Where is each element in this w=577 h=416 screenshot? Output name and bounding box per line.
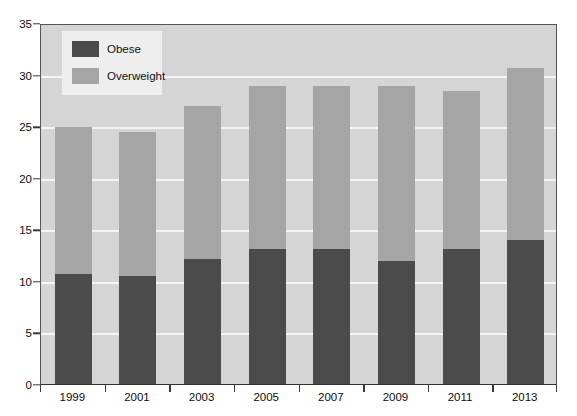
y-axis-tick xyxy=(33,178,40,179)
x-axis-tick xyxy=(234,385,235,392)
y-axis-label: 35 xyxy=(4,18,32,30)
y-axis-tick xyxy=(33,384,40,385)
x-axis-tick xyxy=(556,385,557,392)
x-axis-label: 2001 xyxy=(124,391,150,403)
x-axis-label: 2011 xyxy=(448,391,473,403)
y-axis-label: 30 xyxy=(4,70,32,82)
y-axis-tick xyxy=(33,126,40,127)
y-axis-label: 10 xyxy=(4,276,32,288)
chart-figure: 0510152025303519992001200320052007200920… xyxy=(0,0,577,416)
x-axis-tick xyxy=(492,385,493,392)
x-axis-label: 1999 xyxy=(60,391,86,403)
legend-item[interactable]: Overweight xyxy=(72,67,165,85)
x-axis-label: 2013 xyxy=(512,391,538,403)
legend-label: Obese xyxy=(107,43,141,55)
x-axis-tick xyxy=(105,385,106,392)
chart-legend: ObeseOverweight xyxy=(62,31,162,95)
x-axis-tick xyxy=(299,385,300,392)
y-axis-label: 15 xyxy=(4,224,32,236)
x-axis-label: 2009 xyxy=(383,391,409,403)
x-axis-tick xyxy=(169,385,170,392)
y-axis-label: 5 xyxy=(4,327,32,339)
x-axis-label: 2007 xyxy=(318,391,344,403)
x-axis-tick xyxy=(363,385,364,392)
legend-label: Overweight xyxy=(107,70,165,82)
x-axis-tick xyxy=(40,385,41,392)
y-axis-label: 20 xyxy=(4,173,32,185)
x-axis-tick xyxy=(428,385,429,392)
legend-item[interactable]: Obese xyxy=(72,40,141,58)
y-axis-tick xyxy=(33,230,40,231)
y-axis-tick xyxy=(33,333,40,334)
y-axis-tick xyxy=(33,75,40,76)
y-axis-tick xyxy=(33,23,40,24)
x-axis-label: 2005 xyxy=(253,391,279,403)
legend-swatch-icon xyxy=(72,41,99,57)
y-axis-label: 0 xyxy=(4,379,32,391)
y-axis-tick xyxy=(33,281,40,282)
y-axis-label: 25 xyxy=(4,121,32,133)
legend-swatch-icon xyxy=(72,68,99,84)
x-axis-label: 2003 xyxy=(189,391,215,403)
